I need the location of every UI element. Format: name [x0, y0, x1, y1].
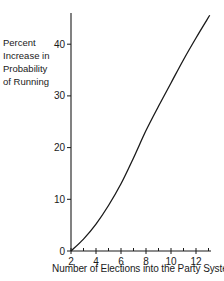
- y-tick-label: 10: [54, 194, 66, 205]
- y-tick-label: 20: [54, 142, 66, 153]
- data-line: [71, 15, 210, 251]
- line-chart: 01020304024681012: [0, 0, 224, 281]
- y-tick-label: 40: [54, 39, 66, 50]
- chart-axes: 01020304024681012: [54, 13, 211, 267]
- y-tick-label: 0: [59, 246, 65, 257]
- y-tick-label: 30: [54, 90, 66, 101]
- x-axis-label: Number of Elections into the Party Syste…: [0, 263, 224, 274]
